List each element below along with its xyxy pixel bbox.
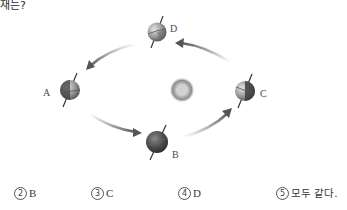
sun-icon — [169, 77, 195, 103]
orbit-arrow-a-to-b — [90, 114, 142, 137]
option-label: B — [29, 187, 36, 199]
orbit-arrow-c-to-d — [175, 38, 230, 62]
answer-option-4[interactable]: 4D — [178, 186, 201, 200]
globe-label-d: D — [170, 24, 177, 34]
globe-label-c: C — [260, 89, 267, 99]
answer-option-5[interactable]: 5모두 같다. — [276, 186, 338, 200]
answer-option-2[interactable]: 2B — [14, 186, 36, 200]
orbit-diagram: D A B C — [0, 0, 347, 175]
answer-option-3[interactable]: 3C — [91, 186, 113, 200]
option-label: D — [193, 187, 201, 199]
option-number-circle: 3 — [91, 187, 104, 200]
orbit-arrow-d-to-a — [86, 44, 135, 70]
earth-globe-b — [146, 125, 168, 160]
option-number-circle: 5 — [276, 187, 289, 200]
orbit-arrow-b-to-c — [183, 108, 232, 137]
globe-label-b: B — [172, 150, 179, 160]
earth-globe-c — [235, 74, 255, 108]
option-number-circle: 4 — [178, 187, 191, 200]
option-number-circle: 2 — [14, 187, 27, 200]
answer-options: 2B 3C 4D 5모두 같다. — [0, 186, 347, 202]
earth-globe-a — [60, 73, 80, 107]
option-label: C — [106, 187, 113, 199]
earth-globe-d — [148, 16, 167, 48]
option-label: 모두 같다. — [291, 187, 338, 199]
globe-label-a: A — [43, 88, 50, 98]
